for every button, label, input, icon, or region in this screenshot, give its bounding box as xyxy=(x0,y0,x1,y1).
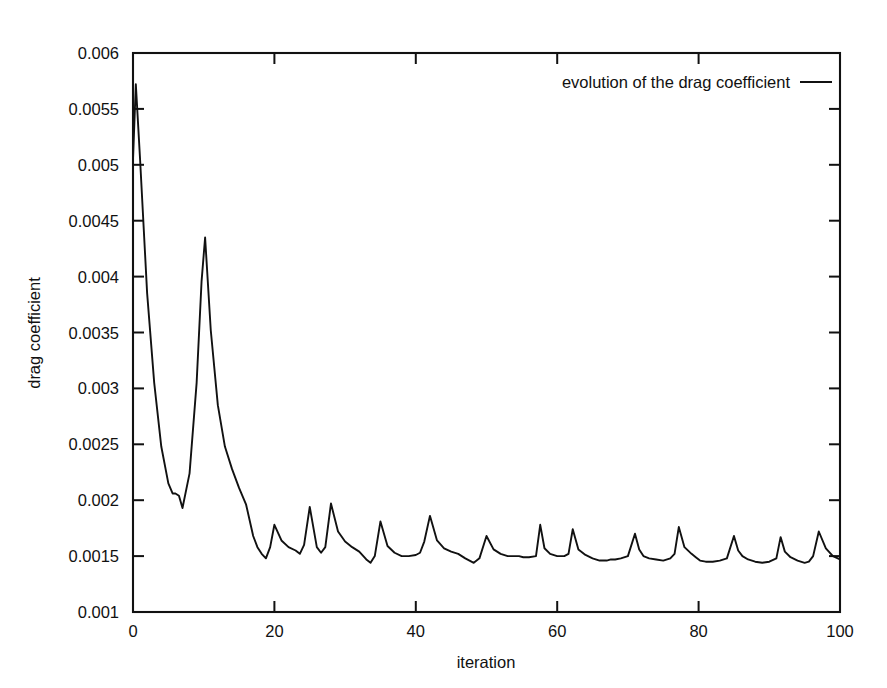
y-tick-label: 0.001 xyxy=(78,603,119,621)
x-axis-title: iteration xyxy=(457,653,516,671)
y-tick-label: 0.0025 xyxy=(69,435,119,453)
x-axis-ticks: 020406080100 xyxy=(128,53,853,640)
x-tick-label: 80 xyxy=(689,622,707,640)
x-tick-label: 20 xyxy=(265,622,283,640)
figure-container: 0.0010.00150.0020.00250.0030.00350.0040.… xyxy=(0,0,887,688)
plot-frame xyxy=(133,53,840,612)
y-tick-label: 0.002 xyxy=(78,491,119,509)
y-axis-ticks: 0.0010.00150.0020.00250.0030.00350.0040.… xyxy=(69,44,840,621)
y-tick-label: 0.006 xyxy=(78,44,119,62)
y-tick-label: 0.003 xyxy=(78,379,119,397)
legend: evolution of the drag coefficient xyxy=(562,73,832,91)
y-axis-title: drag coefficient xyxy=(25,277,43,389)
y-tick-label: 0.005 xyxy=(78,156,119,174)
legend-label-drag-coefficient: evolution of the drag coefficient xyxy=(562,73,791,91)
y-tick-label: 0.0015 xyxy=(69,547,119,565)
x-tick-label: 60 xyxy=(548,622,566,640)
x-tick-label: 0 xyxy=(128,622,137,640)
series-line-evolution-of-the-drag-coefficient xyxy=(133,84,840,563)
y-tick-label: 0.004 xyxy=(78,268,119,286)
y-tick-label: 0.0055 xyxy=(69,100,119,118)
y-tick-label: 0.0035 xyxy=(69,324,119,342)
drag-coefficient-line-chart: 0.0010.00150.0020.00250.0030.00350.0040.… xyxy=(0,0,887,688)
x-tick-label: 100 xyxy=(826,622,854,640)
y-tick-label: 0.0045 xyxy=(69,212,119,230)
x-tick-label: 40 xyxy=(407,622,425,640)
